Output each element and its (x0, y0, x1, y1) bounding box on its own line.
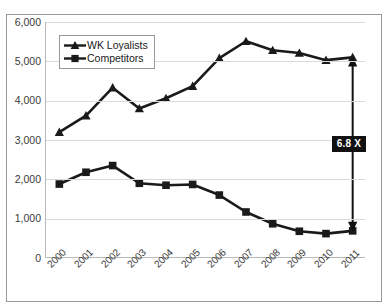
y-axis-tick-label: 1,000 (1, 213, 41, 224)
legend-label-competitors: Competitors (87, 53, 144, 64)
y-axis-tick-label: 5,000 (1, 56, 41, 67)
data-point-marker (108, 83, 117, 91)
data-point-marker (296, 227, 304, 235)
square-marker-icon (64, 53, 86, 64)
data-point-marker (216, 191, 224, 199)
data-point-marker (269, 220, 277, 228)
y-axis-tick-label: 6,000 (1, 17, 41, 28)
ratio-callout-badge: 6.8 X (332, 136, 366, 152)
y-axis-tick-label: 2,000 (1, 174, 41, 185)
legend-item-competitors: Competitors (64, 52, 148, 65)
gridline (46, 219, 365, 220)
data-point-marker (241, 37, 250, 45)
data-point-marker (162, 181, 170, 189)
gridline (46, 101, 365, 102)
y-axis-tick-label: 0 (1, 253, 41, 264)
data-point-marker (189, 181, 197, 189)
y-axis-tick-label: 4,000 (1, 95, 41, 106)
x-axis-tick-labels: 2000200120022003200420052006200720082009… (45, 259, 365, 305)
data-point-marker (109, 162, 117, 170)
data-point-marker (242, 208, 250, 216)
gridline (46, 179, 365, 180)
series-line-competitors (59, 166, 352, 234)
data-point-marker (322, 230, 330, 238)
triangle-marker-icon (64, 40, 86, 51)
legend-label-wk-loyalists: WK Loyalists (87, 40, 148, 51)
data-point-marker (136, 179, 144, 187)
y-axis-tick-label: 3,000 (1, 135, 41, 146)
y-axis-tick-labels: 01,0002,0003,0004,0005,0006,000 (0, 22, 41, 258)
legend-item-wk-loyalists: WK Loyalists (64, 39, 148, 52)
gridline (46, 22, 365, 23)
title-area (0, 0, 388, 13)
data-point-marker (56, 180, 64, 188)
chart-legend: WK Loyalists Competitors (59, 35, 155, 69)
chart-figure: 01,0002,0003,0004,0005,0006,000 20002001… (0, 0, 388, 308)
data-point-marker (82, 168, 90, 176)
gridline (46, 140, 365, 141)
